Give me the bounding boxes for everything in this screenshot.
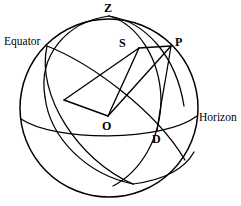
chord-S-to-P (139, 46, 171, 48)
equator-front-arc-left (45, 46, 133, 184)
meridian-lower-left-arc (45, 97, 133, 184)
equator-back-arc (47, 46, 185, 160)
celestial-sphere-figure: Z S P O D Equator Horizon (0, 0, 241, 206)
sphere-diagram-svg (0, 0, 241, 206)
point-label-zenith: Z (104, 2, 112, 14)
point-label-pole: P (175, 36, 182, 48)
meridian-upper-left-arc (44, 16, 109, 97)
point-label-star: S (119, 37, 126, 49)
region-label-equator: Equator (4, 36, 40, 48)
point-label-origin: O (102, 120, 111, 132)
point-label-declination-foot: D (152, 133, 161, 145)
region-label-horizon: Horizon (199, 112, 237, 124)
radius-O-to-equator-point (64, 100, 108, 116)
